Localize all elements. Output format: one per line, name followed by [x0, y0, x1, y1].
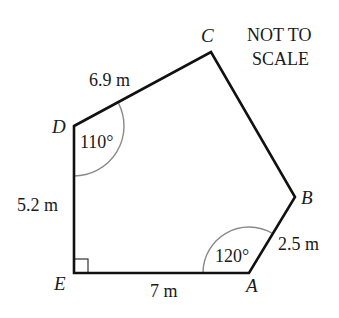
not-to-scale-line1: NOT TO	[247, 25, 312, 45]
side-length-ea: 7 m	[150, 281, 178, 301]
angle-value-d: 110°	[80, 132, 114, 152]
vertex-label-d: D	[51, 116, 66, 137]
not-to-scale-line2: SCALE	[252, 49, 309, 69]
vertex-label-a: A	[244, 275, 258, 296]
angle-value-a: 120°	[215, 246, 249, 266]
side-length-dc: 6.9 m	[89, 70, 130, 90]
vertex-label-e: E	[53, 273, 66, 294]
pentagon-diagram: C D B A E 6.9 m 5.2 m 7 m 2.5 m 110° 120…	[0, 0, 339, 318]
side-length-ab: 2.5 m	[278, 234, 319, 254]
vertex-label-c: C	[201, 25, 214, 46]
side-length-ed: 5.2 m	[17, 195, 58, 215]
vertex-label-b: B	[301, 187, 313, 208]
right-angle-marker-e	[74, 259, 88, 273]
